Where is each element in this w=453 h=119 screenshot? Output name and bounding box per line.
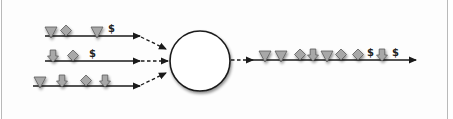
dashed-connector [141,73,166,85]
merge-circle [170,31,230,91]
dashed-connector [141,37,166,49]
arrow-down-token-icon [377,49,388,61]
dollar-token: $ [392,47,399,58]
arrow-down-token-icon [57,75,68,87]
dollar-token: $ [367,47,374,58]
stream-merge-diagram: $ $ [0,0,453,117]
dollar-token: $ [89,48,96,59]
input-stream-3 [33,73,166,88]
merge-node [170,31,230,91]
input-stream-2: $ [45,48,168,62]
diamond-token-icon [353,49,364,60]
diamond-token-icon [81,75,92,86]
diamond-token-icon [336,49,347,60]
dollar-token: $ [108,23,115,34]
arrow-down-token-icon [48,50,59,62]
diamond-token-icon [61,25,72,36]
diamond-token-icon [295,49,306,60]
arrow-down-token-icon [308,49,319,61]
output-stream: $ $ [231,47,416,62]
input-stream-1: $ [45,23,166,49]
diamond-token-icon [68,50,79,61]
arrow-down-token-icon [100,75,111,87]
